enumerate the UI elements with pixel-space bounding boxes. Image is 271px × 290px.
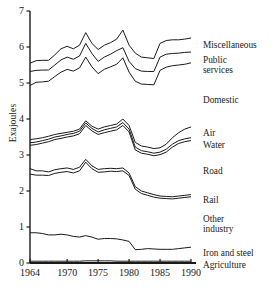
series-label-domestic: Domestic bbox=[203, 95, 239, 105]
y-tick-label-1: 1 bbox=[6, 221, 24, 232]
energy-consumption-chart: Exajoules 01234567 196419701975198019851… bbox=[0, 0, 271, 290]
series-line-water bbox=[30, 123, 191, 154]
series-label-miscellaneous: Miscellaneous bbox=[203, 40, 257, 50]
series-label-road: Road bbox=[203, 166, 223, 176]
y-tick-label-3: 3 bbox=[6, 149, 24, 160]
series-line-rail bbox=[30, 159, 191, 196]
series-label-water: Water bbox=[203, 140, 225, 150]
series-line-domestic bbox=[30, 57, 191, 85]
series-line-air bbox=[30, 119, 191, 149]
y-tick-label-6: 6 bbox=[6, 41, 24, 52]
series-label-services: services bbox=[203, 65, 233, 75]
series-label-other: Other bbox=[203, 214, 224, 224]
x-tick-label-1970: 1970 bbox=[50, 267, 84, 278]
axes bbox=[27, 11, 197, 263]
series-line-miscellaneous bbox=[30, 30, 191, 63]
series-label-rail: Rail bbox=[203, 195, 219, 205]
y-tick-label-7: 7 bbox=[6, 5, 24, 16]
series-line-road bbox=[30, 125, 191, 155]
x-tick-label-1980: 1980 bbox=[112, 267, 146, 278]
y-tick-label-5: 5 bbox=[6, 77, 24, 88]
series-label-iron-and-steel: Iron and steel bbox=[203, 248, 254, 258]
series-label-industry: industry bbox=[203, 224, 233, 234]
series-lines bbox=[30, 30, 191, 261]
x-tick-label-1975: 1975 bbox=[81, 267, 115, 278]
series-line-other-industry bbox=[30, 162, 191, 199]
x-tick-label-1985: 1985 bbox=[143, 267, 177, 278]
series-label-public: Public bbox=[203, 55, 227, 65]
y-tick-label-2: 2 bbox=[6, 185, 24, 196]
series-label-air: Air bbox=[203, 128, 215, 138]
series-label-agriculture: Agriculture bbox=[203, 260, 246, 270]
x-tick-label-1964: 1964 bbox=[13, 267, 47, 278]
series-line-iron-and-steel bbox=[30, 233, 191, 250]
y-tick-label-4: 4 bbox=[6, 113, 24, 124]
